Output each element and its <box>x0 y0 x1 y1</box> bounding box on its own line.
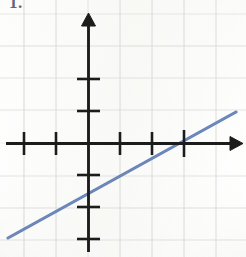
x-axis-arrowhead <box>230 137 243 151</box>
graph-page: 1. <box>0 0 246 257</box>
plotted-line-layer <box>8 112 236 238</box>
plotted-line-highlight <box>8 112 236 238</box>
y-axis-arrowhead <box>82 13 96 26</box>
axes <box>6 13 243 252</box>
coordinate-plane <box>0 0 246 257</box>
